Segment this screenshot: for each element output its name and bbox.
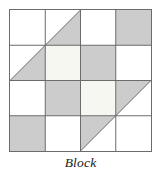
quilt-block-frame — [9, 9, 152, 152]
patch-r2c3 — [81, 45, 116, 80]
patch-r1c4 — [116, 10, 151, 45]
patch-r2c2 — [45, 45, 80, 80]
patch-r3c2 — [45, 81, 80, 116]
quilt-block-diagram — [10, 10, 151, 151]
block-figure: Block — [0, 0, 161, 175]
patch-r4c1 — [10, 116, 45, 151]
figure-caption: Block — [0, 154, 161, 171]
patch-r3c3 — [81, 81, 116, 116]
